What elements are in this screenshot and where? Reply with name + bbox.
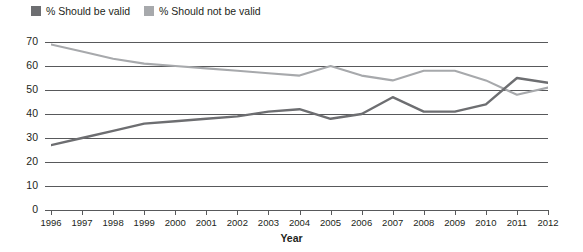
x-axis-tick-mark: [51, 210, 52, 215]
line-should-not-be-valid: [51, 44, 548, 94]
x-axis-tick-mark: [362, 210, 363, 215]
y-axis-tick-label: 10: [14, 180, 38, 191]
x-axis-tick-mark: [144, 210, 145, 215]
legend-item-should-not-be-valid: % Should not be valid: [144, 6, 261, 17]
y-axis-tick-label: 0: [14, 204, 38, 215]
x-axis-tick-mark: [517, 210, 518, 215]
line-should-be-valid: [51, 78, 548, 145]
y-axis-tick-label: 20: [14, 156, 38, 167]
x-axis-tick-mark: [548, 210, 549, 215]
y-axis-tick-label: 40: [14, 108, 38, 119]
y-axis-tick-label: 60: [14, 60, 38, 71]
x-axis-tick-mark: [175, 210, 176, 215]
legend-label-should-be-valid: % Should be valid: [46, 6, 130, 17]
x-axis-tick-mark: [268, 210, 269, 215]
x-axis-tick-mark: [82, 210, 83, 215]
y-axis-tick-labels: 010203040506070: [14, 0, 44, 252]
y-axis-tick-label: 70: [14, 36, 38, 47]
legend-item-should-be-valid: % Should be valid: [31, 6, 130, 17]
legend-swatch-should-not-be-valid: [144, 6, 154, 16]
y-axis-tick-label: 50: [14, 84, 38, 95]
y-axis-tick-label: 30: [14, 132, 38, 143]
x-axis-tick-mark: [237, 210, 238, 215]
legend-label-should-not-be-valid: % Should not be valid: [159, 6, 261, 17]
x-axis-tick-mark: [486, 210, 487, 215]
plot-area: [51, 42, 548, 210]
x-axis-tick-mark: [424, 210, 425, 215]
x-axis-title: Year: [0, 232, 583, 244]
x-axis-tick-mark: [331, 210, 332, 215]
series-lines: [51, 42, 548, 210]
line-chart: % Should be valid % Should not be valid …: [0, 0, 583, 252]
x-axis-tick-label: 2012: [528, 217, 568, 228]
x-axis-tick-mark: [300, 210, 301, 215]
x-axis-tick-mark: [455, 210, 456, 215]
x-axis-tick-mark: [393, 210, 394, 215]
chart-legend: % Should be valid % Should not be valid: [31, 4, 261, 18]
x-axis-tick-mark: [113, 210, 114, 215]
x-axis-tick-mark: [206, 210, 207, 215]
